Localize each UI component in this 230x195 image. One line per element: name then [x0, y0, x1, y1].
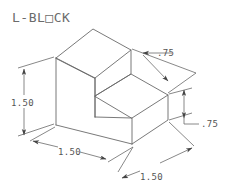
dim-line-width-inner [122, 171, 140, 178]
edge-top-face-upper [56, 29, 131, 78]
edge-front-left-upper [56, 58, 95, 117]
dimension-height-left [18, 57, 54, 136]
dimension-label-step-depth-top-right: .75 [157, 48, 174, 58]
dimension-label-depth-bottom-left: 1.50 [58, 147, 81, 157]
dim-line-step-depth-diagonal [143, 55, 168, 81]
dimension-width-bottom-right [118, 122, 194, 178]
dim-line-depth-right [80, 152, 106, 159]
dim-line-width-outer [160, 148, 192, 163]
ext-line-height-bottom [18, 124, 54, 136]
isometric-drawing: L-BL□CK [0, 0, 230, 195]
dimension-step-height-right [169, 88, 199, 124]
edge-bottom-left [56, 125, 132, 144]
dimension-label-step-height-right: .75 [201, 119, 218, 129]
dimension-label-width-bottom-right: 1.50 [140, 172, 163, 182]
drawing-canvas: L-BL□CK [0, 0, 230, 195]
ext-line-depth-end [108, 147, 133, 162]
ext-line-width-start [118, 147, 133, 172]
edge-lower-front-face [95, 117, 132, 144]
dimension-depth-bottom-left [30, 127, 133, 162]
l-block-solid [56, 29, 168, 144]
drawing-title: L-BL□CK [12, 10, 70, 25]
ext-line-width-end [169, 122, 194, 146]
ext-line-step-height-top [169, 88, 192, 94]
ext-line-height-top [18, 57, 54, 68]
edge-lower-right-face [132, 95, 168, 144]
edge-step-top-face [95, 74, 168, 118]
ext-line-step-height-bottom [169, 113, 192, 120]
edge-right-face-upper [95, 50, 131, 96]
dim-line-depth-left [33, 141, 58, 147]
ext-line-step-depth-lower [168, 73, 196, 93]
ext-line-depth-start [30, 127, 55, 141]
dimension-label-height-left: 1.50 [11, 98, 34, 108]
